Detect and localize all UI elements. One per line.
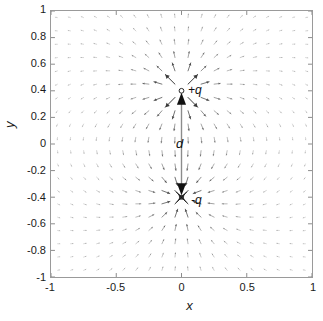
x-tick-label: 1 [293, 282, 323, 293]
x-axis-label-text: x [130, 298, 193, 313]
x-axis-label: x [0, 298, 323, 313]
x-tick-label: 0.5 [227, 282, 267, 293]
charge-label-negative: -q [191, 194, 202, 206]
x-tick-label: -0.5 [96, 282, 136, 293]
dipole-field-figure: 10.80.60.40.20-0.2-0.4-0.6-0.8-1 -1-0.50… [0, 0, 323, 321]
x-tick-label: -1 [30, 282, 70, 293]
separation-label: d [176, 137, 183, 150]
y-axis-label: y [2, 122, 17, 129]
x-axis-tick-labels: -1-0.500.51 [0, 0, 323, 321]
x-tick-label: 0 [162, 282, 202, 293]
charge-label-positive: +q [188, 84, 202, 96]
